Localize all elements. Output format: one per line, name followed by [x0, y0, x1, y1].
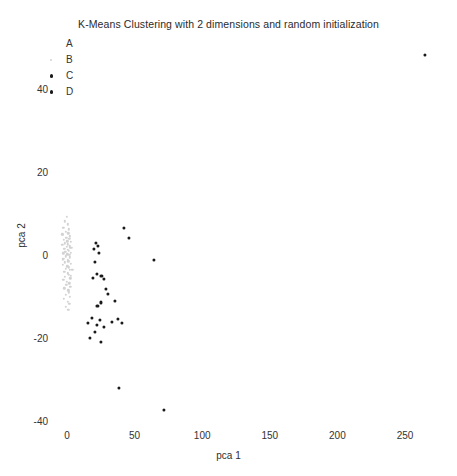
- data-point-c: [94, 260, 97, 263]
- data-point-d: [110, 321, 113, 324]
- y-tick-label: 40: [14, 83, 48, 94]
- data-point-c: [153, 258, 156, 261]
- x-tick-label: 100: [194, 430, 211, 441]
- y-tick-label: 20: [14, 166, 48, 177]
- data-point-d: [95, 323, 98, 326]
- data-point-b: [64, 275, 66, 277]
- data-point-d: [99, 318, 102, 321]
- data-point-b: [69, 277, 71, 279]
- data-point-b: [62, 264, 64, 266]
- data-point-b: [62, 279, 64, 281]
- data-point-c: [122, 226, 125, 229]
- scatter-plot-figure: K-Means Clustering with 2 dimensions and…: [0, 0, 457, 476]
- data-point-c: [96, 304, 99, 307]
- data-point-b: [63, 220, 65, 222]
- data-point-c: [105, 288, 108, 291]
- data-point-b: [69, 263, 71, 265]
- x-tick-label: 150: [261, 430, 278, 441]
- data-point-b: [63, 261, 65, 263]
- data-point-b: [62, 252, 64, 254]
- x-tick-label: 50: [129, 430, 140, 441]
- data-point-b: [70, 251, 72, 253]
- data-point-d: [88, 337, 91, 340]
- x-tick-label: 200: [329, 430, 346, 441]
- data-point-c: [95, 273, 98, 276]
- data-point-d: [86, 322, 89, 325]
- data-point-b: [63, 270, 65, 272]
- data-point-b: [69, 295, 71, 297]
- data-point-c: [107, 293, 110, 296]
- data-point-b: [67, 309, 69, 311]
- data-point-b: [68, 303, 70, 305]
- data-point-b: [65, 305, 67, 307]
- data-point-b: [65, 284, 67, 286]
- bottom-edge-artifact: ........: [8, 471, 208, 476]
- data-point-d: [90, 317, 93, 320]
- data-point-b: [63, 287, 65, 289]
- data-point-b: [65, 255, 67, 257]
- data-point-d: [94, 331, 97, 334]
- data-point-b: [66, 216, 68, 218]
- data-point-b: [68, 238, 70, 240]
- data-point-d: [120, 322, 123, 325]
- data-point-d: [103, 325, 106, 328]
- data-point-b: [69, 285, 71, 287]
- y-tick-label: -40: [14, 416, 48, 427]
- data-point-c: [127, 236, 130, 239]
- data-point-b: [65, 268, 67, 270]
- data-point-c: [96, 244, 99, 247]
- data-point-b: [69, 256, 71, 258]
- x-axis-tick-labels: 050100150200250: [0, 430, 457, 444]
- data-point-d: [424, 54, 427, 57]
- data-point-c: [93, 248, 96, 251]
- data-point-c: [113, 299, 116, 302]
- data-point-d: [163, 408, 166, 411]
- data-point-b: [62, 226, 64, 228]
- data-point-c: [99, 301, 102, 304]
- data-point-b: [70, 241, 72, 243]
- data-point-b: [68, 282, 70, 284]
- data-point-d: [117, 318, 120, 321]
- data-point-b: [71, 268, 73, 270]
- data-point-b: [63, 298, 65, 300]
- x-tick-label: 250: [397, 430, 414, 441]
- y-axis-title: pca 2: [16, 206, 27, 266]
- data-point-b: [66, 223, 68, 225]
- data-point-c: [92, 277, 95, 280]
- data-point-b: [67, 291, 69, 293]
- data-point-b: [67, 228, 69, 230]
- x-axis-title: pca 1: [0, 450, 457, 461]
- data-point-d: [118, 387, 121, 390]
- data-point-d: [99, 340, 102, 343]
- data-point-b: [61, 244, 63, 246]
- x-tick-label: 0: [64, 430, 70, 441]
- plot-area: [0, 0, 457, 476]
- data-point-b: [63, 239, 65, 241]
- data-point-c: [97, 252, 100, 255]
- data-point-b: [64, 293, 66, 295]
- y-tick-label: -20: [14, 333, 48, 344]
- data-point-c: [102, 278, 105, 281]
